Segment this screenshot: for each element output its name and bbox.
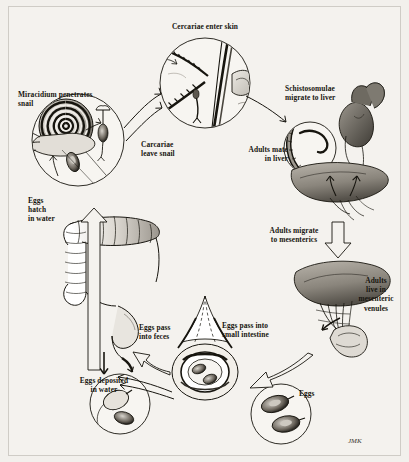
label-schistosomulae-migrate-to-liver: Schistosomulae migrate to liver: [285, 84, 381, 102]
figure-page: Cercariae enter skin Miracidium penetrat…: [0, 0, 409, 462]
label-carcariae-leave-snail: Carcariae leave snail: [141, 140, 211, 158]
artist-signature: JMK: [348, 437, 362, 445]
label-adults-migrate-to-mesenterics: Adults migrate to mesenterics: [258, 226, 330, 244]
label-eggs-deposited-in-water: Eggs deposited in water: [61, 376, 147, 394]
label-eggs-hatch-in-water: Eggs hatch in water: [28, 196, 76, 224]
label-eggs-pass-into-feces: Eggs pass into feces: [139, 323, 199, 341]
label-eggs-pass-into-small-intestine: Eggs pass into small intestine: [222, 321, 298, 339]
label-cercariae-enter-skin: Cercariae enter skin: [149, 22, 261, 31]
label-eggs: Eggs: [299, 389, 333, 398]
label-adults-live-in-mesenteric-venules: Adults live in mesenteric venules: [347, 276, 405, 313]
label-adults-mate-in-liver: Adults mate in liver: [216, 145, 288, 163]
label-miracidium-penetrates-snail: Miracidium penetrates snail: [18, 90, 134, 108]
